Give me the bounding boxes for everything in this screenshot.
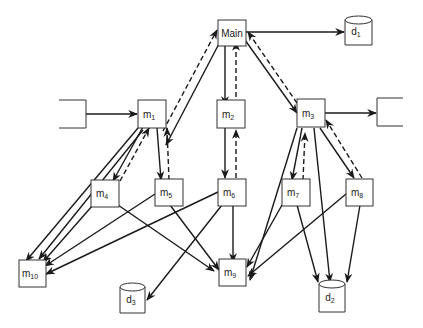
edge-m1-to-m5 xyxy=(157,128,161,180)
external-sink-right xyxy=(377,98,403,126)
module-m5-subscript: 5 xyxy=(168,192,172,199)
datastore-d2-subscript: 2 xyxy=(331,297,335,304)
module-m6-label: m xyxy=(223,187,231,198)
module-m9-subscript: 9 xyxy=(232,272,236,279)
module-m3[interactable]: m3 xyxy=(297,99,325,127)
edge-main-to-m1 xyxy=(166,38,222,145)
module-m7[interactable]: m7 xyxy=(282,179,310,206)
svg-text:Main: Main xyxy=(221,28,243,39)
module-m10-label: m xyxy=(22,268,30,279)
module-m2-subscript: 2 xyxy=(230,114,234,121)
datastore-d2[interactable]: d2 xyxy=(319,280,345,312)
module-m7-subscript: 7 xyxy=(295,192,299,199)
datastore-d3[interactable]: d3 xyxy=(120,283,145,313)
datastore-d1[interactable]: d1 xyxy=(345,16,372,45)
module-m6[interactable]: m6 xyxy=(218,179,246,206)
edge-main-to-m3 xyxy=(245,40,297,113)
module-m8-label: m xyxy=(351,187,359,198)
module-m10[interactable]: m10 xyxy=(19,260,46,287)
datastore-d1-subscript: 1 xyxy=(357,31,361,38)
module-m1-label: m xyxy=(143,109,151,120)
module-m9[interactable]: m9 xyxy=(219,259,246,286)
module-m7-label: m xyxy=(287,187,295,198)
edge-m1-to-main-dashed xyxy=(163,30,217,131)
module-main[interactable]: Main xyxy=(218,20,246,46)
edge-m3-to-m7 xyxy=(292,128,302,180)
module-m3-subscript: 3 xyxy=(310,113,314,120)
edges xyxy=(26,30,376,300)
module-m10-subscript: 10 xyxy=(30,273,38,280)
module-m4[interactable]: m4 xyxy=(91,180,119,207)
module-m9-label: m xyxy=(224,267,232,278)
module-m4-subscript: 4 xyxy=(104,193,108,200)
edge-m4-to-m9 xyxy=(118,205,214,271)
datastore-d3-subscript: 3 xyxy=(132,299,136,306)
edge-m8-to-m3-dashed xyxy=(326,120,362,178)
edge-m6-to-m10 xyxy=(46,192,218,274)
edge-m7-to-d2 xyxy=(297,205,318,282)
edge-m8-to-d2 xyxy=(347,205,360,282)
module-m6-subscript: 6 xyxy=(231,192,235,199)
module-m4-label: m xyxy=(96,188,104,199)
module-m8-subscript: 8 xyxy=(359,192,363,199)
module-m1[interactable]: m1 xyxy=(138,100,166,128)
module-m8[interactable]: m8 xyxy=(346,179,373,206)
module-main-label: Main xyxy=(221,28,243,39)
module-m1-subscript: 1 xyxy=(151,114,155,121)
edge-m3-to-m8 xyxy=(320,128,354,178)
structure-chart: Main m1 m2 m3 m4 m5 m6 m7 m8 m9 m10 xyxy=(0,0,423,328)
module-m5[interactable]: m5 xyxy=(155,179,183,206)
edge-m5-to-m1-dashed xyxy=(167,128,169,180)
module-m2-label: m xyxy=(222,109,230,120)
edge-m7-to-m3-dashed xyxy=(303,133,305,180)
external-source-left xyxy=(59,100,86,128)
module-m2[interactable]: m2 xyxy=(217,100,245,128)
edge-m3-to-d2 xyxy=(314,128,330,282)
module-m5-label: m xyxy=(160,187,168,198)
edge-m3-to-main-dashed xyxy=(248,32,297,103)
edge-m7-to-m9 xyxy=(247,205,282,267)
edge-m4-to-m1-dashed xyxy=(120,128,149,181)
edge-m6-to-d3 xyxy=(147,205,222,300)
module-m3-label: m xyxy=(302,108,310,119)
edge-m5-to-m9 xyxy=(170,205,219,270)
